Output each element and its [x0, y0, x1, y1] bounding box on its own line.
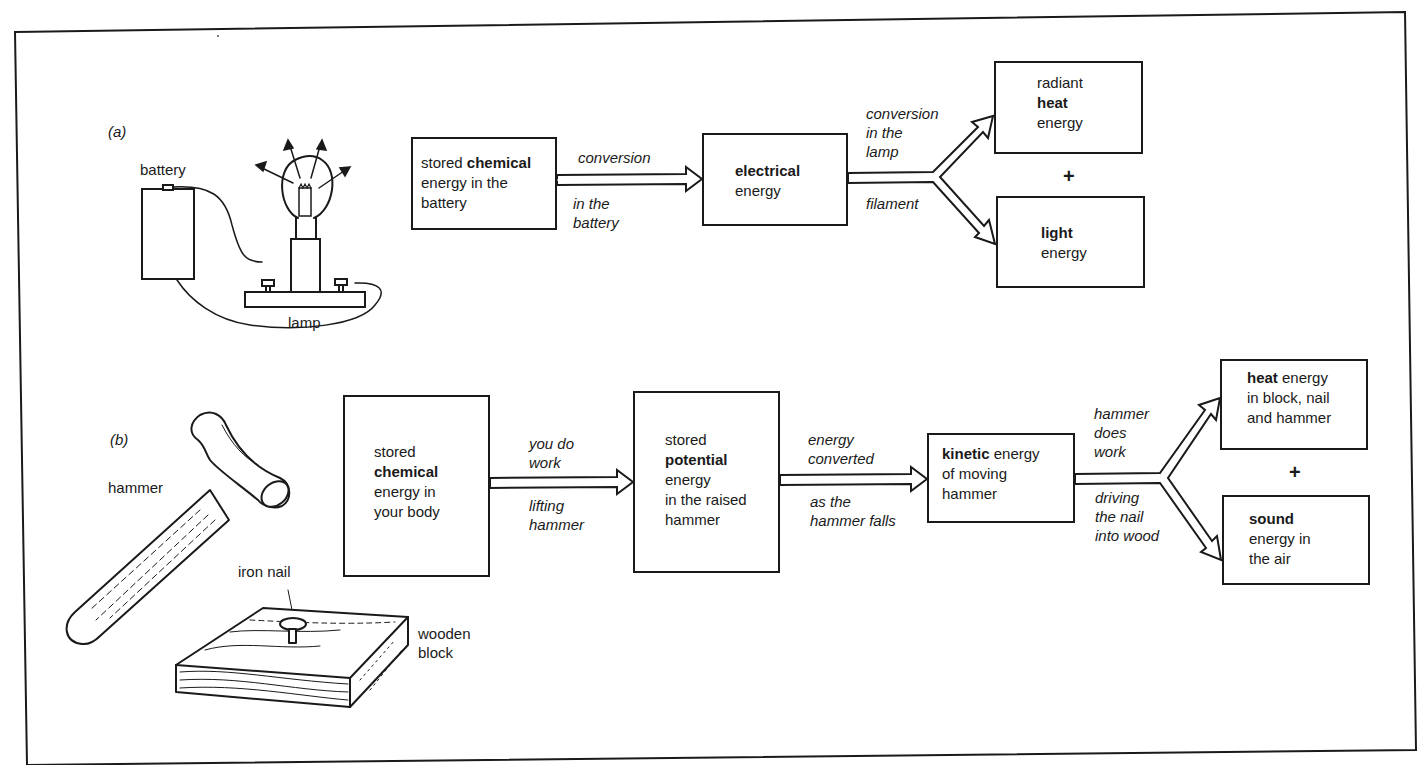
- hammer-label: hammer: [108, 478, 163, 497]
- hammer-icon: [67, 490, 229, 644]
- diagram-canvas: [0, 0, 1423, 765]
- part-a-label: (a): [108, 122, 126, 141]
- part-b-label: (b): [110, 430, 128, 449]
- arrow-a1-caption-below: in the battery: [573, 194, 619, 232]
- arrow-b3-caption-below: driving the nail into wood: [1095, 488, 1159, 545]
- arrow-a2-caption-below: filament: [866, 194, 919, 213]
- plus-sign-a: +: [1063, 166, 1075, 186]
- arrow-b2-caption-below: as the hammer falls: [810, 492, 896, 530]
- arrow-b1-caption-below: lifting hammer: [529, 496, 584, 534]
- plus-sign-b: +: [1289, 462, 1301, 482]
- box-kinetic-energy: kinetic energy of moving hammer: [927, 433, 1075, 523]
- arrow-b2-caption-above: energy converted: [808, 430, 874, 468]
- arrow-chemical-to-potential: [490, 470, 633, 494]
- box-light-energy: light energy: [996, 196, 1145, 288]
- arrow-b1-caption-above: you do work: [529, 434, 574, 472]
- iron-nail-label: iron nail: [238, 562, 291, 581]
- wooden-block-label: wooden block: [418, 624, 471, 662]
- arrow-a1-caption-above: conversion: [578, 148, 651, 167]
- box-electrical-energy: electrical energy: [702, 133, 848, 226]
- box-stored-chemical-battery: stored chemical energy in the battery: [411, 137, 557, 230]
- box-heat-energy-block: heat energy in block, nail and hammer: [1220, 359, 1368, 450]
- battery-label: battery: [140, 160, 186, 179]
- arrow-a2-caption-above: conversion in the lamp: [866, 104, 939, 161]
- box-radiant-heat-energy: radiant heat energy: [994, 61, 1143, 154]
- box-stored-potential: stored potential energy in the raised ha…: [633, 391, 780, 573]
- lamp-base: [245, 292, 365, 307]
- arrow-b3-caption-above: hammer does work: [1094, 404, 1149, 461]
- arrow-potential-to-kinetic: [780, 467, 927, 491]
- battery-icon: [142, 189, 194, 279]
- lamp-label: lamp: [288, 313, 321, 332]
- box-sound-energy: sound energy in the air: [1222, 495, 1370, 585]
- box-stored-chemical-body: stored chemical energy in your body: [343, 395, 490, 577]
